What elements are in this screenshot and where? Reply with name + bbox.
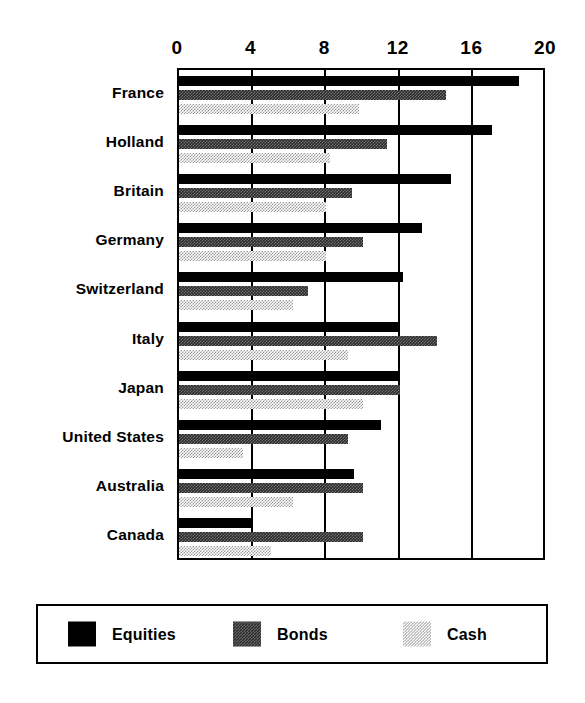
bar-bonds [179,385,400,395]
category-label: Japan [118,379,164,397]
legend-item: Equities [68,622,176,647]
cash-swatch [403,622,431,647]
x-tick-label: 20 [534,36,556,60]
bar-equities [179,76,519,86]
x-axis-tick-labels: 048121620 [0,36,585,62]
plot-area [177,68,545,560]
bar-equities [179,518,253,528]
bar-equities [179,272,403,282]
category-labels: FranceHollandBritainGermanySwitzerlandIt… [0,68,172,560]
category-label: United States [62,428,164,446]
bar-group [179,513,543,562]
bar-cash [179,448,243,458]
bar-cash [179,300,293,310]
bar-cash [179,153,330,163]
bar-cash [179,104,359,114]
bar-bonds [179,336,437,346]
category-label: Holland [106,133,164,151]
x-tick-label: 4 [245,36,256,60]
bar-equities [179,174,451,184]
legend-label: Bonds [277,625,328,643]
bar-group [179,464,543,513]
category-label: Britain [114,182,165,200]
category-label: Canada [107,526,164,544]
bar-chart: 048121620 FranceHollandBritainGermanySwi… [0,0,585,703]
bar-cash [179,251,326,261]
bar-bonds [179,286,308,296]
bar-equities [179,125,492,135]
bar-bonds [179,483,363,493]
bar-group [179,119,543,168]
bar-equities [179,469,354,479]
bars-layer [179,70,543,558]
bar-group [179,218,543,267]
bar-bonds [179,532,363,542]
legend-label: Equities [112,625,176,643]
bar-bonds [179,139,387,149]
bar-bonds [179,90,446,100]
bar-cash [179,497,293,507]
legend-items: EquitiesBondsCash [38,606,546,662]
bar-equities [179,371,400,381]
category-label: Italy [132,330,164,348]
x-tick-label: 12 [387,36,409,60]
bar-cash [179,202,326,212]
bar-bonds [179,434,348,444]
equities-swatch [68,622,96,647]
category-label: Australia [96,477,164,495]
bar-group [179,70,543,119]
bar-equities [179,223,422,233]
x-tick-label: 16 [460,36,482,60]
bar-equities [179,420,381,430]
legend-item: Bonds [233,622,328,647]
legend-label: Cash [447,625,487,643]
bar-group [179,168,543,217]
bar-group [179,365,543,414]
category-label: Switzerland [76,280,164,298]
bar-group [179,414,543,463]
bar-cash [179,350,348,360]
category-label: France [112,84,164,102]
bar-equities [179,322,400,332]
category-label: Germany [95,231,164,249]
bar-cash [179,546,271,556]
legend-box: EquitiesBondsCash [36,604,548,664]
legend-item: Cash [403,622,487,647]
bar-group [179,267,543,316]
bonds-swatch [233,622,261,647]
x-tick-label: 0 [171,36,182,60]
bar-bonds [179,188,352,198]
bar-cash [179,399,363,409]
bar-group [179,316,543,365]
bar-bonds [179,237,363,247]
x-tick-label: 8 [319,36,330,60]
